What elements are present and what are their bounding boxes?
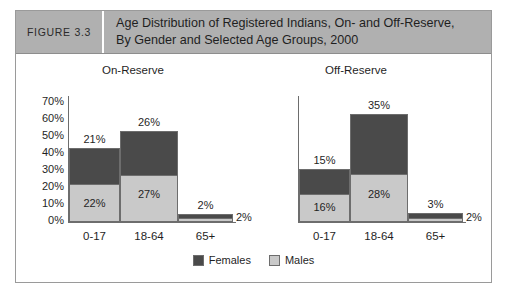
bar-group-on-65plus[interactable] [178,214,233,222]
legend-label-females: Females [209,254,251,266]
bar-segment-males[interactable] [69,184,120,222]
bar-segment-females[interactable] [350,114,408,175]
plot-area-on-reserve: 22% 21% 27% 26% 2% 2% 0-17 [68,96,236,223]
x-axis-tick-on-18-64: 18-64 [120,230,178,242]
legend-label-males: Males [285,254,314,266]
bar-segment-females[interactable] [69,148,120,185]
chart-plot-body: On-Reserve 70% 60% 50% 40% 30% 20% 10% 0… [16,54,491,282]
x-axis-tick-off-65plus: 65+ [408,230,463,242]
legend-item-females[interactable]: Females [193,254,251,266]
bar-segment-males[interactable] [350,174,408,222]
figure-title-line-2: By Gender and Selected Age Groups, 2000 [116,32,491,49]
bar-value-males-on-65plus: 2% [236,212,252,223]
x-axis-line [298,222,466,223]
bar-group-off-18-64[interactable]: 28% [350,114,408,222]
y-axis: 70% 60% 50% 40% 30% 20% 10% 0% [30,96,64,216]
bar-group-on-18-64[interactable]: 27% [120,131,178,222]
figure-header: FIGURE 3.3 Age Distribution of Registere… [16,11,491,54]
bar-group-on-0-17[interactable]: 22% [69,148,120,222]
y-axis-tick: 20% [42,181,64,192]
figure-title-line-1: Age Distribution of Registered Indians, … [116,15,491,32]
bar-value-females-off-65plus: 3% [408,199,463,210]
bar-segment-females[interactable] [120,131,178,176]
x-axis-line [68,222,236,223]
bar-group-off-65plus[interactable] [408,213,463,222]
bar-segment-females[interactable] [408,213,463,219]
y-axis-tick: 40% [42,147,64,158]
bar-segment-females[interactable] [299,169,350,195]
bar-value-females-on-0-17: 21% [69,134,120,145]
bar-segment-females[interactable] [178,214,233,219]
figure-number-cell: FIGURE 3.3 [16,11,104,53]
y-axis-tick: 30% [42,164,64,175]
x-axis-tick-off-18-64: 18-64 [350,230,408,242]
figure-number-label: FIGURE 3.3 [27,26,91,38]
y-axis-tick: 10% [42,198,64,209]
panel-title-off-reserve: Off-Reserve [261,64,451,76]
bar-group-off-0-17[interactable]: 16% [299,169,350,222]
x-axis-tick-on-0-17: 0-17 [69,230,120,242]
legend-swatch-females-icon [193,255,204,266]
panel-title-on-reserve: On-Reserve [38,64,228,76]
bar-value-females-on-18-64: 26% [120,117,178,128]
chart-legend: Females Males [16,254,491,266]
bar-value-males-off-65plus: 2% [466,212,482,223]
bar-value-females-on-65plus: 2% [178,200,233,211]
bar-value-females-off-0-17: 15% [299,155,350,166]
figure-title-cell: Age Distribution of Registered Indians, … [104,11,491,53]
y-axis-tick: 60% [42,113,64,124]
x-axis-tick-off-0-17: 0-17 [299,230,350,242]
y-axis-tick: 50% [42,130,64,141]
bar-value-females-off-18-64: 35% [350,100,408,111]
y-axis-tick: 0% [48,215,64,226]
chart-panel-on-reserve: On-Reserve 70% 60% 50% 40% 30% 20% 10% 0… [16,54,261,282]
bar-segment-males[interactable] [120,175,178,222]
chart-panel-off-reserve: Off-Reserve 16% 15% 28% 35% [261,54,493,282]
figure-frame: FIGURE 3.3 Age Distribution of Registere… [15,10,492,283]
legend-swatch-males-icon [269,255,280,266]
legend-item-males[interactable]: Males [269,254,314,266]
y-axis-tick: 70% [42,96,64,107]
plot-area-off-reserve: 16% 15% 28% 35% 3% 2% 0-17 [298,96,466,223]
x-axis-tick-on-65plus: 65+ [178,230,233,242]
bar-segment-males[interactable] [299,194,350,222]
